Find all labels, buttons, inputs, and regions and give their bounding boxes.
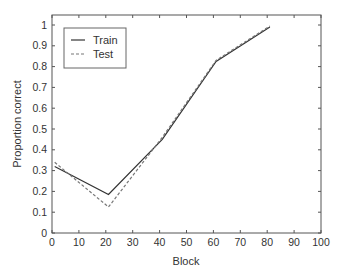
x-tick-label: 10 — [73, 236, 85, 248]
x-tick-label: 20 — [100, 236, 112, 248]
line-chart: 010203040506070809010000.10.20.30.40.50.… — [0, 0, 343, 275]
legend: TrainTest — [64, 28, 126, 68]
y-tick-label: 0 — [41, 227, 47, 239]
x-tick-label: 80 — [261, 236, 273, 248]
y-tick-label: 0.6 — [32, 102, 47, 114]
y-tick-label: 0.8 — [32, 60, 47, 72]
x-tick-label: 30 — [127, 236, 139, 248]
x-tick-label: 0 — [49, 236, 55, 248]
y-axis-label: Proportion correct — [11, 80, 23, 167]
y-tick-label: 0.9 — [32, 39, 47, 51]
x-tick-label: 90 — [288, 236, 300, 248]
x-tick-label: 50 — [181, 236, 193, 248]
x-tick-label: 60 — [208, 236, 220, 248]
y-tick-label: 0.2 — [32, 185, 47, 197]
legend-label-train: Train — [93, 34, 118, 46]
legend-label-test: Test — [93, 48, 113, 60]
y-tick-label: 0.5 — [32, 123, 47, 135]
y-tick-label: 0.1 — [32, 206, 47, 218]
x-tick-label: 40 — [154, 236, 166, 248]
y-tick-label: 0.7 — [32, 81, 47, 93]
y-tick-label: 0.3 — [32, 164, 47, 176]
y-tick-label: 1 — [41, 19, 47, 31]
x-tick-label: 70 — [234, 236, 246, 248]
x-axis-label: Block — [173, 255, 200, 267]
x-tick-label: 100 — [312, 236, 330, 248]
y-tick-label: 0.4 — [32, 143, 47, 155]
